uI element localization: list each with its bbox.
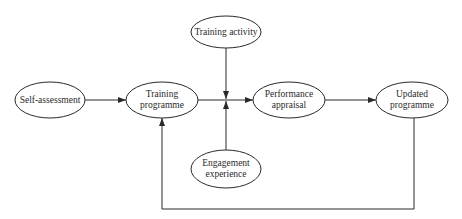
label-text: programme xyxy=(140,100,184,111)
label-updated-programme: Updated programme xyxy=(376,86,448,114)
label-training-activity: Training activity xyxy=(191,22,261,42)
label-self-assessment: Self-assessment xyxy=(15,90,85,110)
label-training-programme: Training programme xyxy=(126,86,198,114)
label-performance-appraisal: Performance appraisal xyxy=(253,86,325,114)
label-text: Performance xyxy=(265,89,314,100)
diagram-canvas: Self-assessment Training programme Train… xyxy=(0,0,462,219)
label-engagement-experience: Engagement experience xyxy=(191,155,261,183)
label-text: Self-assessment xyxy=(20,95,81,106)
label-text: Training xyxy=(146,89,178,100)
label-text: Updated xyxy=(396,89,428,100)
label-text: Engagement xyxy=(202,158,249,169)
label-text: appraisal xyxy=(272,100,306,111)
label-text: Training activity xyxy=(194,27,257,38)
label-text: programme xyxy=(390,100,434,111)
label-text: experience xyxy=(205,169,246,180)
